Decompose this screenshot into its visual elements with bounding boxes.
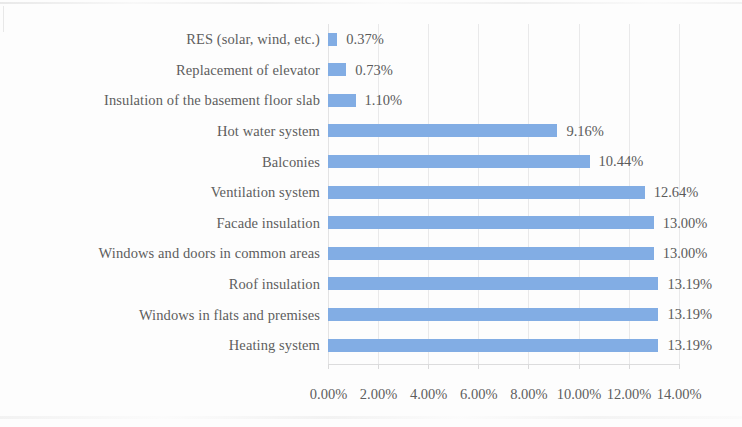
chart-row: Balconies10.44%	[0, 146, 742, 177]
x-axis-line	[328, 364, 679, 365]
tick-8.00%	[528, 364, 529, 369]
bar-value-label: 13.19%	[667, 336, 712, 354]
chart-row: Windows in flats and premises13.19%	[0, 299, 742, 330]
bar[interactable]	[328, 94, 356, 107]
bar-track: 0.37%	[328, 24, 742, 55]
x-tick-label: 10.00%	[557, 385, 602, 403]
bar-value-label: 12.64%	[654, 183, 699, 201]
bar[interactable]	[328, 63, 346, 76]
bar-value-label: 0.37%	[346, 30, 383, 48]
bar[interactable]	[328, 155, 590, 168]
bar-value-label: 0.73%	[355, 61, 392, 79]
bar-track: 13.19%	[328, 299, 742, 330]
category-label: Windows and doors in common areas	[10, 245, 320, 261]
category-label: Ventilation system	[10, 184, 320, 200]
x-axis-tick-labels: 0.00%2.00%4.00%6.00%8.00%10.00%12.00%14.…	[0, 385, 742, 405]
x-tick-label: 6.00%	[460, 385, 497, 403]
bar[interactable]	[328, 124, 557, 137]
bar-track: 1.10%	[328, 85, 742, 116]
x-tick-label: 4.00%	[410, 385, 447, 403]
bar-track: 13.00%	[328, 208, 742, 239]
tick-10.00%	[579, 364, 580, 369]
bar-value-label: 1.10%	[365, 91, 402, 109]
x-tick-label: 0.00%	[310, 385, 347, 403]
x-tick-label: 12.00%	[607, 385, 652, 403]
bar[interactable]	[328, 308, 658, 321]
bar[interactable]	[328, 33, 337, 46]
tick-12.00%	[629, 364, 630, 369]
bar-track: 10.44%	[328, 146, 742, 177]
bar[interactable]	[328, 216, 654, 229]
category-label: RES (solar, wind, etc.)	[10, 31, 320, 47]
bar-value-label: 13.19%	[667, 275, 712, 293]
category-label: Insulation of the basement floor slab	[10, 92, 320, 108]
x-tick-label: 8.00%	[510, 385, 547, 403]
bar-track: 0.73%	[328, 55, 742, 86]
bar[interactable]	[328, 247, 654, 260]
chart-plot-area: RES (solar, wind, etc.)0.37%Replacement …	[0, 24, 742, 361]
chart-row: RES (solar, wind, etc.)0.37%	[0, 24, 742, 55]
chart-row: Replacement of elevator0.73%	[0, 55, 742, 86]
category-label: Windows in flats and premises	[10, 307, 320, 323]
tick-6.00%	[478, 364, 479, 369]
x-tick-label: 2.00%	[360, 385, 397, 403]
tick-2.00%	[378, 364, 379, 369]
x-tick-label: 14.00%	[657, 385, 702, 403]
bar-value-label: 10.44%	[599, 152, 644, 170]
bar-value-label: 13.00%	[663, 244, 708, 262]
bar-track: 12.64%	[328, 177, 742, 208]
chart-row: Ventilation system12.64%	[0, 177, 742, 208]
chart-row: Heating system13.19%	[0, 330, 742, 361]
category-label: Facade insulation	[10, 215, 320, 231]
tick-4.00%	[428, 364, 429, 369]
bar-value-label: 9.16%	[566, 122, 603, 140]
category-label: Hot water system	[10, 123, 320, 139]
bar-track: 13.19%	[328, 330, 742, 361]
bar[interactable]	[328, 277, 658, 290]
chart-row: Facade insulation13.00%	[0, 208, 742, 239]
chart-row: Insulation of the basement floor slab1.1…	[0, 85, 742, 116]
bar-track: 9.16%	[328, 116, 742, 147]
horizontal-bar-chart: RES (solar, wind, etc.)0.37%Replacement …	[0, 0, 742, 427]
bar-track: 13.00%	[328, 238, 742, 269]
tick-14.00%	[679, 364, 680, 369]
tick-0.00%	[328, 364, 329, 369]
category-label: Heating system	[10, 337, 320, 353]
chart-row: Windows and doors in common areas13.00%	[0, 238, 742, 269]
bar-value-label: 13.19%	[667, 305, 712, 323]
category-label: Replacement of elevator	[10, 62, 320, 78]
category-label: Roof insulation	[10, 276, 320, 292]
chart-row: Hot water system9.16%	[0, 116, 742, 147]
bar[interactable]	[328, 186, 645, 199]
bar-track: 13.19%	[328, 269, 742, 300]
bar-value-label: 13.00%	[663, 214, 708, 232]
category-label: Balconies	[10, 154, 320, 170]
bar[interactable]	[328, 339, 658, 352]
chart-row: Roof insulation13.19%	[0, 269, 742, 300]
